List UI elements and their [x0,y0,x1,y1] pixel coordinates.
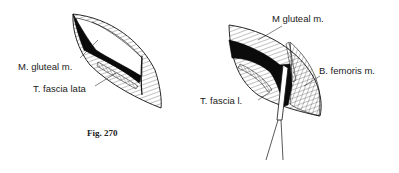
label-right-gluteal: M gluteal m. [272,14,324,24]
label-left-gluteal: M. gluteal m. [18,62,72,72]
label-right-fascia: T. fascia l. [200,96,242,106]
label-left-fascia: T. fascia lata [33,84,86,94]
left-illustration [73,14,161,108]
figure-caption: Fig. 270 [87,128,118,138]
right-illustration [229,25,321,160]
anatomical-figure: M. gluteal m. T. fascia lata M gluteal m… [0,0,399,173]
label-right-femoris: B. femoris m. [319,66,375,76]
